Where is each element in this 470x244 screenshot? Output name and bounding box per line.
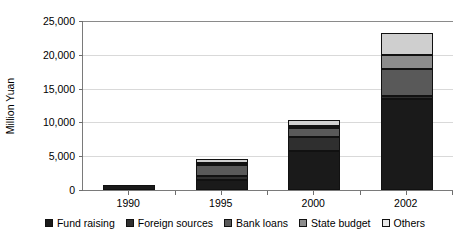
bar-segment[interactable] [103, 185, 155, 190]
y-axis-tick [79, 55, 83, 56]
legend-label: Bank loans [236, 217, 288, 229]
y-axis-tick [79, 156, 83, 157]
bar-segment[interactable] [196, 165, 248, 176]
plot-area [82, 21, 453, 191]
y-axis-tick-label: 10,000 [0, 116, 75, 128]
x-axis-tick [406, 191, 407, 195]
x-axis: 1990199520002002 [82, 191, 453, 213]
chart-legend: Fund raisingForeign sourcesBank loansSta… [0, 213, 470, 233]
x-axis-boundary-tick [267, 191, 268, 195]
legend-item-bank-loans[interactable]: Bank loans [224, 217, 288, 229]
bar-1990[interactable] [103, 185, 155, 190]
y-axis-tick-label: 0 [0, 184, 75, 196]
bar-segment[interactable] [381, 55, 433, 69]
bar-1995[interactable] [196, 159, 248, 190]
y-axis-tick [79, 89, 83, 90]
bar-segment[interactable] [288, 137, 340, 151]
x-axis-tick [128, 191, 129, 195]
y-axis-tick [79, 122, 83, 123]
legend-swatch-icon [126, 219, 134, 227]
x-axis-tick-label-2002: 2002 [394, 197, 417, 209]
x-axis-tick [313, 191, 314, 195]
y-axis-tick [79, 21, 83, 22]
bar-segment[interactable] [288, 128, 340, 137]
x-axis-tick [221, 191, 222, 195]
bar-segment[interactable] [381, 99, 433, 190]
legend-item-foreign-sources[interactable]: Foreign sources [126, 217, 213, 229]
y-axis-tick-label: 5,000 [0, 150, 75, 162]
legend-swatch-icon [224, 219, 232, 227]
y-axis-tick-label: 15,000 [0, 83, 75, 95]
y-axis-title: Million Yuan [2, 22, 18, 190]
x-axis-boundary-tick [360, 191, 361, 195]
legend-swatch-icon [299, 219, 307, 227]
y-axis-tick-label: 25,000 [0, 15, 75, 27]
x-axis-boundary-tick [452, 191, 453, 195]
bar-2000[interactable] [288, 120, 340, 190]
bar-segment[interactable] [288, 151, 340, 190]
x-axis-tick-label-1995: 1995 [209, 197, 232, 209]
legend-swatch-icon [382, 219, 390, 227]
legend-label: Foreign sources [138, 217, 213, 229]
x-axis-tick-label-2000: 2000 [302, 197, 325, 209]
legend-label: Fund raising [57, 217, 115, 229]
x-axis-tick-label-1990: 1990 [117, 197, 140, 209]
x-axis-boundary-tick [175, 191, 176, 195]
bar-chart: Million Yuan 05,00010,00015,00020,00025,… [0, 0, 470, 244]
legend-swatch-icon [45, 219, 53, 227]
legend-item-state-budget[interactable]: State budget [299, 217, 371, 229]
y-axis-tick-label: 20,000 [0, 49, 75, 61]
legend-label: State budget [311, 217, 371, 229]
legend-item-fund-raising[interactable]: Fund raising [45, 217, 115, 229]
gridline [83, 21, 453, 22]
bar-2002[interactable] [381, 33, 433, 190]
bar-segment[interactable] [381, 69, 433, 96]
bar-segment[interactable] [381, 33, 433, 55]
legend-label: Others [394, 217, 426, 229]
legend-item-others[interactable]: Others [382, 217, 426, 229]
bar-segment[interactable] [196, 180, 248, 190]
